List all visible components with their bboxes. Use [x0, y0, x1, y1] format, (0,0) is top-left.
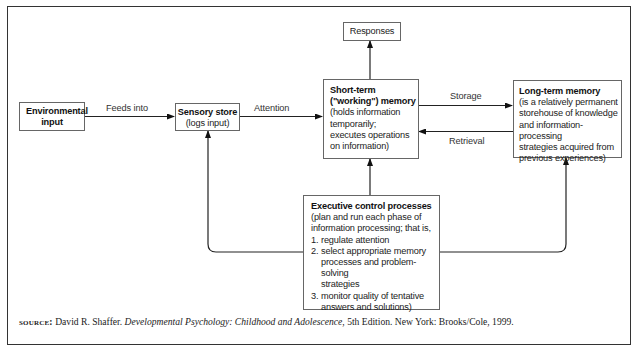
sensory-store-title: Sensory store	[176, 107, 239, 118]
source-label: source:	[19, 316, 53, 327]
long-term-desc-2: storehouse of knowledge	[519, 108, 621, 119]
edge-label-feeds-into: Feeds into	[106, 103, 148, 113]
long-term-desc-4: strategies acquired from	[519, 142, 621, 153]
executive-control-box: Executive control processes (plan and ru…	[303, 195, 440, 310]
short-term-desc-3: executes operations	[330, 130, 418, 141]
long-term-desc-1: (is a relatively permanent	[519, 97, 621, 108]
edge-label-attention: Attention	[254, 103, 289, 113]
executive-desc-2: information processing; that is,	[311, 223, 439, 234]
executive-list: 1. regulate attention 2. select appropri…	[311, 235, 439, 313]
source-title: Developmental Psychology: Childhood and …	[125, 316, 343, 327]
source-rest: , 5th Edition. New York: Brooks/Cole, 19…	[342, 316, 513, 327]
short-term-memory-box: Short-term ("working") memory (holds inf…	[323, 79, 419, 159]
executive-item-3: 3. monitor quality of tentative answers …	[311, 291, 439, 313]
responses-label: Responses	[350, 26, 395, 36]
edge-label-retrieval: Retrieval	[449, 136, 484, 146]
sensory-store-box: Sensory store (logs input)	[175, 103, 240, 131]
long-term-desc-5: previous experiences)	[519, 153, 621, 164]
short-term-title-2: ("working") memory	[330, 96, 418, 107]
long-term-desc-3: and information-processing	[519, 120, 621, 142]
environmental-input-label: Environmental input	[20, 106, 84, 128]
short-term-desc-1: (holds information	[330, 107, 418, 118]
executive-desc-1: (plan and run each phase of	[311, 212, 439, 223]
long-term-memory-box: Long-term memory (is a relatively perman…	[513, 80, 622, 158]
short-term-title-1: Short-term	[330, 85, 418, 96]
short-term-desc-2: temporarily;	[330, 119, 418, 130]
long-term-title: Long-term memory	[519, 86, 621, 97]
sensory-store-desc: (logs input)	[186, 118, 230, 128]
executive-item-2: 2. select appropriate memory processes a…	[311, 246, 439, 291]
short-term-desc-4: on information)	[330, 141, 418, 152]
executive-title: Executive control processes	[311, 201, 439, 212]
responses-box: Responses	[343, 22, 401, 41]
source-author: David R. Shaffer.	[55, 316, 122, 327]
executive-item-1: 1. regulate attention	[311, 235, 439, 246]
source-citation: source: David R. Shaffer. Developmental …	[19, 316, 514, 327]
environmental-input-box: Environmental input	[19, 102, 85, 131]
edge-label-storage: Storage	[450, 91, 481, 101]
